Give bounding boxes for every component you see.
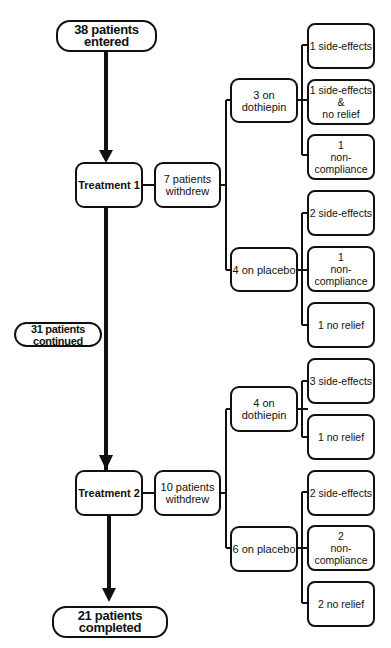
- t2-placebo-node: 6 on placebo: [230, 526, 298, 572]
- reason-label: 1 side-effects: [310, 40, 372, 52]
- reason-label: 1 no relief: [318, 431, 364, 443]
- patients-continued-label: 31 patients continued: [16, 323, 100, 347]
- reason-label: 1 no relief: [318, 319, 364, 331]
- reason-label: 2 no relief: [318, 598, 364, 610]
- t1-dothiepin-reason-2: 1 side-effects & no relief: [307, 79, 375, 125]
- t1-placebo-reason-2: 1 non-compliance: [307, 246, 375, 292]
- t1-placebo-reason-1: 2 side-effects: [307, 190, 375, 236]
- reason-label: 2 non-compliance: [309, 530, 373, 566]
- t1-dothiepin-reason-1: 1 side-effects: [307, 23, 375, 69]
- t2-dothiepin-reason-2: 1 no relief: [307, 414, 375, 460]
- reason-label: 2 side-effects: [310, 487, 372, 499]
- reason-label: 2 side-effects: [310, 207, 372, 219]
- t2-dothiepin-node: 4 on dothiepin: [230, 386, 298, 432]
- patients-entered-node: 38 patients entered: [56, 20, 157, 52]
- treatment-2-label: Treatment 2: [78, 487, 140, 499]
- t1-dothiepin-reason-3: 1 non-compliance: [307, 134, 375, 180]
- t2-dothiepin-label: 4 on dothiepin: [232, 397, 296, 421]
- reason-label: 3 side-effects: [310, 375, 372, 387]
- t2-placebo-label: 6 on placebo: [233, 543, 296, 555]
- patients-completed-label: 21 patients completed: [54, 610, 166, 634]
- reason-label: 1 side-effects & no relief: [309, 84, 373, 120]
- t2-dothiepin-reason-1: 3 side-effects: [307, 358, 375, 404]
- t1-dothiepin-label: 3 on dothiepin: [232, 89, 296, 113]
- treatment-1-withdrew-node: 7 patients withdrew: [154, 162, 221, 208]
- treatment-2-node: Treatment 2: [75, 470, 143, 516]
- treatment-1-withdrew-label: 7 patients withdrew: [164, 173, 212, 197]
- treatment-2-withdrew-label: 10 patients withdrew: [161, 481, 215, 505]
- t2-placebo-reason-3: 2 no relief: [307, 581, 375, 627]
- patients-completed-node: 21 patients completed: [52, 606, 168, 638]
- t1-dothiepin-node: 3 on dothiepin: [230, 78, 298, 123]
- patients-continued-node: 31 patients continued: [14, 322, 102, 347]
- treatment-2-withdrew-node: 10 patients withdrew: [154, 470, 221, 516]
- treatment-1-node: Treatment 1: [75, 162, 143, 208]
- t1-placebo-node: 4 on placebo: [230, 247, 298, 292]
- t2-placebo-reason-2: 2 non-compliance: [307, 525, 375, 571]
- treatment-1-label: Treatment 1: [78, 179, 140, 191]
- reason-label: 1 non-compliance: [309, 251, 373, 287]
- reason-label: 1 non-compliance: [309, 139, 373, 175]
- t2-placebo-reason-1: 2 side-effects: [307, 470, 375, 516]
- t1-placebo-label: 4 on placebo: [233, 264, 296, 276]
- t1-placebo-reason-3: 1 no relief: [307, 302, 375, 348]
- patients-entered-label: 38 patients entered: [58, 24, 155, 48]
